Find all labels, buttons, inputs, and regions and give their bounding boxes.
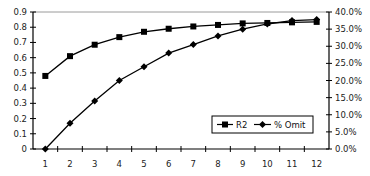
square-marker-icon <box>215 22 221 28</box>
square-marker-icon <box>67 53 73 59</box>
right-axis-tick-label: 25.0% <box>335 58 362 68</box>
diamond-marker-icon <box>141 63 148 70</box>
right-y-axis: 0.0%5.0%10.0%15.0%20.0%25.0%30.0%35.0%40… <box>326 7 362 154</box>
x-axis-tick-label: 2 <box>67 159 72 169</box>
left-axis-tick-label: 0.9 <box>13 7 27 17</box>
x-axis-tick-label: 1 <box>43 159 48 169</box>
square-marker-icon <box>42 73 48 79</box>
square-marker-icon <box>190 23 196 29</box>
x-axis-tick-label: 9 <box>240 159 245 169</box>
left-axis-tick-label: 0.7 <box>13 37 27 47</box>
legend-label-r2: R2 <box>236 120 247 130</box>
left-axis-tick-label: 0.5 <box>13 68 27 78</box>
diamond-marker-icon <box>190 41 197 48</box>
x-axis-tick-label: 5 <box>141 159 146 169</box>
left-axis-tick-label: 0.8 <box>13 22 27 32</box>
x-axis-tick-label: 8 <box>215 159 220 169</box>
left-y-axis: 00.10.20.30.40.50.60.70.80.9 <box>13 7 36 154</box>
left-axis-tick-label: 0.6 <box>13 53 27 63</box>
x-axis-tick-label: 6 <box>166 159 171 169</box>
right-axis-tick-label: 30.0% <box>335 41 362 51</box>
legend-square-marker-icon <box>222 122 228 128</box>
square-marker-icon <box>116 34 122 40</box>
x-axis-tick-label: 7 <box>191 159 196 169</box>
right-axis-tick-label: 40.0% <box>335 7 362 17</box>
x-axis-tick-label: 12 <box>311 159 322 169</box>
right-axis-tick-label: 35.0% <box>335 24 362 34</box>
diamond-marker-icon <box>239 26 246 33</box>
left-axis-tick-label: 0.4 <box>13 83 27 93</box>
left-axis-tick-label: 0.2 <box>13 114 27 124</box>
diamond-marker-icon <box>165 50 172 57</box>
x-axis-tick-label: 3 <box>92 159 97 169</box>
x-axis-tick-label: 10 <box>262 159 273 169</box>
left-axis-tick-label: 0 <box>22 144 27 154</box>
right-axis-tick-label: 5.0% <box>335 127 357 137</box>
x-axis: 123456789101112 <box>33 146 329 169</box>
right-axis-tick-label: 0.0% <box>335 144 357 154</box>
right-axis-tick-label: 20.0% <box>335 76 362 86</box>
diamond-marker-icon <box>215 32 222 39</box>
square-marker-icon <box>166 26 172 32</box>
square-marker-icon <box>240 20 246 26</box>
legend: R2 % Omit <box>212 116 313 133</box>
x-axis-tick-label: 4 <box>117 159 122 169</box>
right-axis-tick-label: 15.0% <box>335 93 362 103</box>
legend-label-omit: % Omit <box>274 120 306 130</box>
square-marker-icon <box>92 42 98 48</box>
square-marker-icon <box>141 29 147 35</box>
right-axis-tick-label: 10.0% <box>335 110 362 120</box>
left-axis-tick-label: 0.1 <box>13 129 27 139</box>
left-axis-tick-label: 0.3 <box>13 98 27 108</box>
x-axis-tick-label: 11 <box>287 159 298 169</box>
line-chart: 00.10.20.30.40.50.60.70.80.9 0.0%5.0%10.… <box>0 0 370 176</box>
